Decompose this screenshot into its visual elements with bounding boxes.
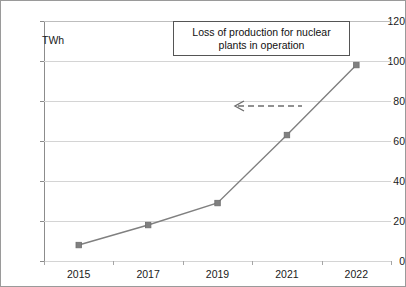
chart-figure: 020406080100120 20152017201920212022 TWh… [0, 0, 406, 287]
gridline [44, 181, 391, 182]
y-axis-unit-label: TWh [42, 34, 64, 46]
x-axis-tick-label: 2022 [326, 268, 386, 280]
gridline [44, 261, 391, 262]
x-axis-tick-label: 2021 [257, 268, 317, 280]
x-axis-tick-label: 2017 [118, 268, 178, 280]
x-axis-tick-mark [183, 261, 184, 265]
gridline [44, 101, 391, 102]
x-axis-tick-label: 2015 [49, 268, 109, 280]
annotation-callout: Loss of production for nuclear plants in… [173, 21, 350, 56]
gridline [44, 141, 391, 142]
x-axis-tick-label: 2019 [188, 268, 248, 280]
x-axis-tick-mark [44, 261, 45, 265]
plot-area [44, 21, 391, 261]
annotation-line-2: plants in operation [219, 39, 305, 51]
x-axis-tick-mark [391, 261, 392, 265]
gridline [44, 221, 391, 222]
gridline [44, 61, 391, 62]
x-axis-tick-mark [113, 261, 114, 265]
annotation-line-1: Loss of production for nuclear [192, 26, 330, 38]
x-axis-tick-mark [322, 261, 323, 265]
x-axis-tick-mark [252, 261, 253, 265]
